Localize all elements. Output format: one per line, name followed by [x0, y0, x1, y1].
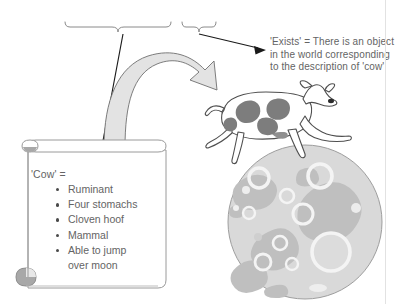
list-item: Four stomachs [55, 197, 137, 212]
moon-icon [228, 145, 382, 299]
cow-definition-label: 'Cow' = [31, 168, 66, 180]
exists-gloss-text: 'Exists' = There is an object in the wor… [270, 36, 395, 74]
list-item: Cloven hoof [55, 212, 137, 227]
list-item: Mammal [55, 228, 137, 243]
brace-right-icon [182, 22, 216, 32]
list-item: Ruminant [55, 182, 137, 197]
thin-arrow-icon-to-gloss [199, 34, 266, 55]
figure-canvas: 'Exists' = There is an object in the wor… [0, 0, 395, 304]
cow-definition-list: Ruminant Four stomachs Cloven hoof Mamma… [55, 182, 137, 273]
list-item: Able to jump over moon [55, 243, 137, 273]
right-border-rule [385, 0, 386, 304]
thick-curved-arrow-icon [104, 53, 217, 148]
brace-left-icon [65, 22, 171, 32]
